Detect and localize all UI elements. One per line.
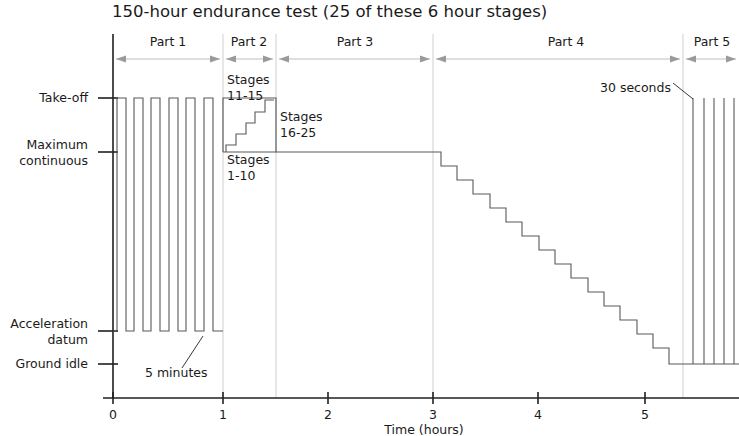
xtick-label-3: 3 — [429, 407, 437, 422]
ylabel-ground-idle: Ground idle — [15, 356, 88, 371]
xtick-label-5: 5 — [641, 407, 649, 422]
dimarrow-part-5-left — [686, 56, 696, 63]
part-label-2: Part 2 — [231, 34, 268, 49]
part-label-5: Part 5 — [694, 34, 731, 49]
ylabel-maximum-continuous-line2: continuous — [19, 153, 88, 168]
five-minutes-label: 5 minutes — [145, 365, 208, 380]
ylabel-take-off: Take-off — [38, 90, 88, 105]
leader-five-minutes — [182, 336, 203, 368]
part-label-3: Part 3 — [337, 34, 374, 49]
ylabel-acceleration-datum-line1: Acceleration — [10, 316, 88, 331]
endurance-test-diagram: 150-hour endurance test (25 of these 6 h… — [0, 0, 739, 436]
xtick-label-2: 2 — [324, 407, 332, 422]
part-2-staircase — [226, 100, 274, 152]
part-labels: Part 1 Part 2 Part 3 Part 4 Part 5 — [150, 34, 731, 49]
annotation-five-minutes: 5 minutes — [145, 336, 208, 380]
trace-part-2 — [223, 98, 276, 152]
dimarrow-part-4-left — [436, 56, 446, 63]
annotation-stages-1-10: Stages 1-10 — [227, 152, 270, 183]
stages-1-10-line2: 1-10 — [227, 168, 255, 183]
dimarrow-part-3-left — [279, 56, 289, 63]
dimarrow-part-1-left — [116, 56, 126, 63]
x-tick-labels: 0 1 2 3 4 5 — [109, 407, 649, 422]
trace-part-4 — [433, 152, 683, 364]
stages-11-15-line2: 11-15 — [227, 88, 263, 103]
trace-part-5 — [683, 98, 739, 364]
part-label-4: Part 4 — [548, 34, 585, 49]
part-label-1: Part 1 — [150, 34, 187, 49]
part-2-envelope — [223, 98, 276, 152]
trace-part-1 — [113, 98, 223, 331]
dimarrow-part-3-right — [420, 56, 430, 63]
dimarrow-part-5-right — [726, 56, 736, 63]
part-4-staircase — [433, 152, 683, 364]
annotation-stages-16-25: Stages 16-25 — [280, 109, 323, 140]
xtick-label-0: 0 — [109, 407, 117, 422]
stages-11-15-line1: Stages — [227, 72, 270, 87]
ylabel-acceleration-datum-line2: datum — [47, 332, 88, 347]
page-title: 150-hour endurance test (25 of these 6 h… — [112, 2, 547, 21]
dimarrow-part-1-right — [210, 56, 220, 63]
dimarrow-part-2-left — [226, 56, 236, 63]
stages-16-25-line2: 16-25 — [280, 125, 316, 140]
y-level-ticks — [98, 98, 118, 364]
annotation-thirty-seconds: 30 seconds — [600, 80, 693, 99]
figure-root: 150-hour endurance test (25 of these 6 h… — [0, 0, 739, 436]
xtick-label-4: 4 — [534, 407, 542, 422]
ylabel-maximum-continuous-line1: Maximum — [26, 137, 88, 152]
stages-1-10-line1: Stages — [227, 152, 270, 167]
part-1-waveform — [113, 98, 223, 331]
part-dimension-lines — [116, 56, 736, 63]
y-axis-labels: Take-off Maximum continuous Acceleration… — [10, 90, 88, 371]
x-axis-title: Time (hours) — [383, 422, 463, 436]
dimarrow-part-2-right — [263, 56, 273, 63]
stages-16-25-line1: Stages — [280, 109, 323, 124]
dimarrow-part-4-right — [670, 56, 680, 63]
annotation-stages-11-15: Stages 11-15 — [227, 72, 270, 103]
thirty-seconds-label: 30 seconds — [600, 80, 671, 95]
xtick-label-1: 1 — [219, 407, 227, 422]
